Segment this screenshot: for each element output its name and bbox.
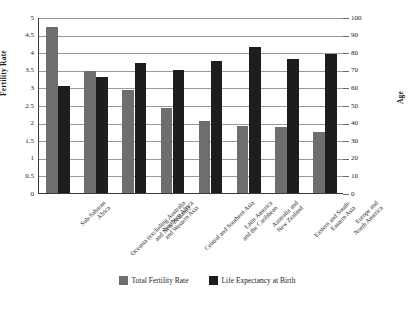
bar-total-fertility-rate (313, 132, 325, 193)
secondary-y-axis-tick-label: 80 (351, 50, 377, 57)
bar-life-expectancy-at-birth (249, 47, 261, 193)
bar-group (77, 18, 115, 193)
y-axis-tick-label: 0.5 (8, 173, 34, 180)
bar-group (230, 18, 268, 193)
axis-tick-mark (343, 71, 349, 72)
bar-total-fertility-rate (275, 127, 287, 193)
bar-life-expectancy-at-birth (211, 61, 223, 193)
secondary-y-axis-tick-label: 90 (351, 32, 377, 39)
bar-group (268, 18, 306, 193)
axis-tick-mark (343, 18, 349, 19)
axis-tick-mark (343, 141, 349, 142)
secondary-y-axis-tick-label: 60 (351, 85, 377, 92)
y-axis-tick-label: 4 (8, 50, 34, 57)
axis-tick-mark (343, 53, 349, 54)
axis-tick-mark (343, 88, 349, 89)
y-axis-tick-label: 4.5 (8, 32, 34, 39)
bar-life-expectancy-at-birth (287, 59, 299, 193)
bar-life-expectancy-at-birth (96, 77, 108, 194)
legend-swatch (119, 276, 128, 285)
y-axis-tick-label: 2.5 (8, 103, 34, 110)
chart-container: Fertility Rate Age Total Fertility RateL… (0, 0, 414, 309)
bar-total-fertility-rate (199, 121, 211, 194)
axis-tick-mark (343, 124, 349, 125)
legend-item: Total Fertility Rate (119, 276, 189, 285)
legend-label: Total Fertility Rate (132, 276, 189, 285)
secondary-y-axis-tick-label: 100 (351, 15, 377, 22)
secondary-y-axis-tick-label: 0 (351, 191, 377, 198)
bar-group (153, 18, 191, 193)
bar-total-fertility-rate (84, 71, 96, 193)
secondary-y-axis-tick-label: 40 (351, 120, 377, 127)
secondary-y-axis-tick-label: 30 (351, 138, 377, 145)
secondary-y-axis-title: Age (396, 91, 405, 104)
secondary-y-axis-tick-label: 20 (351, 155, 377, 162)
bar-life-expectancy-at-birth (325, 54, 337, 193)
bar-group (192, 18, 230, 193)
axis-tick-mark (343, 36, 349, 37)
legend-item: Life Expectancy at Birth (209, 276, 296, 285)
y-axis-tick-label: 5 (8, 15, 34, 22)
y-axis-title: Fertility Rate (0, 50, 8, 96)
axis-tick-mark (343, 106, 349, 107)
plot-area (38, 18, 343, 194)
secondary-y-axis-tick-label: 70 (351, 67, 377, 74)
axis-tick-mark (343, 194, 349, 195)
legend-label: Life Expectancy at Birth (222, 276, 296, 285)
bar-life-expectancy-at-birth (135, 63, 147, 193)
secondary-y-axis-tick-label: 10 (351, 173, 377, 180)
bar-life-expectancy-at-birth (173, 70, 185, 193)
chart-legend: Total Fertility RateLife Expectancy at B… (0, 276, 414, 285)
bar-group (39, 18, 77, 193)
y-axis-tick-label: 1 (8, 155, 34, 162)
y-axis-tick-label: 0 (8, 191, 34, 198)
secondary-y-axis-tick-label: 50 (351, 103, 377, 110)
axis-tick-mark (343, 176, 349, 177)
y-axis-tick-label: 3.5 (8, 67, 34, 74)
y-axis-tick-label: 2 (8, 120, 34, 127)
legend-swatch (209, 276, 218, 285)
bar-total-fertility-rate (237, 126, 249, 193)
bar-life-expectancy-at-birth (58, 86, 70, 193)
bar-total-fertility-rate (161, 108, 173, 193)
y-axis-tick-label: 3 (8, 85, 34, 92)
x-axis-category-label: Sub-SaharanAfrica (79, 199, 112, 232)
axis-tick-mark (343, 159, 349, 160)
bar-total-fertility-rate (122, 90, 134, 193)
bar-group (306, 18, 344, 193)
y-axis-tick-label: 1.5 (8, 138, 34, 145)
bar-group (115, 18, 153, 193)
bar-total-fertility-rate (46, 27, 58, 193)
